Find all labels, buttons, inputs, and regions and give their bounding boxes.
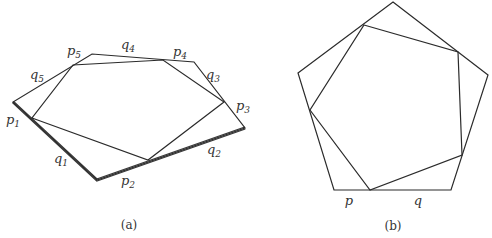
caption-a: (a): [121, 218, 138, 232]
label-p5: p5: [67, 43, 81, 60]
label-p: p: [345, 193, 354, 208]
label-p4: p4: [173, 44, 187, 61]
label-q3: q3: [206, 67, 220, 84]
label-p3: p3: [236, 98, 250, 115]
panel-a: p5 q4 p4 q3 p3 q5 p1 q1 q2 p2 (a): [6, 37, 250, 232]
label-q: q: [414, 193, 422, 208]
panel-b-inner-pentagon: [310, 25, 462, 190]
label-q2: q2: [207, 142, 221, 159]
panel-b: p q (b): [298, 2, 488, 233]
label-p2: p2: [121, 173, 135, 190]
label-q4: q4: [121, 37, 135, 54]
label-q5: q5: [30, 67, 44, 84]
caption-b: (b): [384, 219, 401, 233]
label-q1: q1: [54, 151, 68, 168]
label-p1: p1: [6, 112, 20, 129]
diagram-canvas: p5 q4 p4 q3 p3 q5 p1 q1 q2 p2 (a) p q (b…: [0, 0, 492, 238]
